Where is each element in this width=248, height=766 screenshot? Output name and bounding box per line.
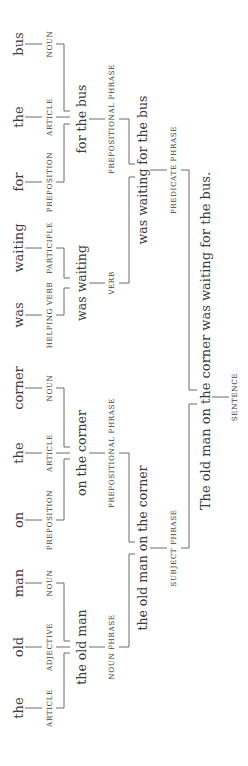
word-on: on xyxy=(12,512,25,528)
predicate-phrase-label: PREDICATE PHRASE xyxy=(170,126,177,214)
subject-phrase-label: SUBJECT PHRASE xyxy=(170,509,177,586)
word-for: for xyxy=(12,173,25,192)
phrase-subject: the old man on the corner xyxy=(137,465,150,630)
word-was: was xyxy=(12,302,25,328)
phrase-was-waiting: was waiting xyxy=(76,245,89,321)
pos-label: ARTICLE xyxy=(46,434,53,472)
phrase-label: VERB xyxy=(108,271,115,295)
word-waiting: waiting xyxy=(12,223,25,272)
phrase-predicate: was waiting for the bus xyxy=(137,96,150,245)
phrase-label: PREPOSITIONAL PHRASE xyxy=(108,398,115,508)
pos-label: ADJECTIVE xyxy=(46,623,53,671)
pos-label: PARTICIPLE xyxy=(46,222,53,273)
pos-label: NOUN xyxy=(46,31,53,58)
pos-label: PREPOSITION xyxy=(46,152,53,212)
word-old: old xyxy=(12,637,25,657)
pos-label: ARTICLE xyxy=(46,98,53,136)
sentence-label: SENTENCE xyxy=(231,373,238,421)
full-sentence: The old man on the corner was waiting fo… xyxy=(199,172,212,510)
phrase-on-the-corner: on the corner xyxy=(76,410,89,496)
word-the: the xyxy=(12,697,25,718)
sentence-parse-tree-diagram: bus the for waiting was corner the on ma… xyxy=(0,0,248,766)
word-corner: corner xyxy=(12,366,25,410)
pos-label: HELPING VERB xyxy=(46,282,53,349)
word-the: the xyxy=(12,442,25,463)
phrase-for-the-bus: for the bus xyxy=(76,84,89,153)
pos-label: PREPOSITION xyxy=(46,490,53,550)
pos-label: NOUN xyxy=(46,570,53,597)
phrase-the-old-man: the old man xyxy=(76,609,89,684)
phrase-label: NOUN PHRASE xyxy=(108,614,115,679)
word-the: the xyxy=(12,106,25,127)
phrase-label: PREPOSITIONAL PHRASE xyxy=(108,64,115,174)
pos-label: NOUN xyxy=(46,375,53,402)
pos-label: ARTICLE xyxy=(46,689,53,727)
word-man: man xyxy=(12,569,25,597)
word-bus: bus xyxy=(12,32,25,55)
